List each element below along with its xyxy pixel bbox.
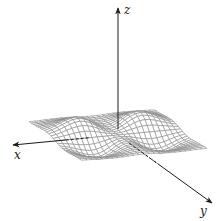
z-axis-label: z [123,3,131,17]
y-axis-label: y [199,204,207,218]
x-axis-label: x [14,148,21,162]
y-axis [157,164,212,203]
visible-axes [13,8,212,203]
surface-plot: x y z [0,0,223,221]
